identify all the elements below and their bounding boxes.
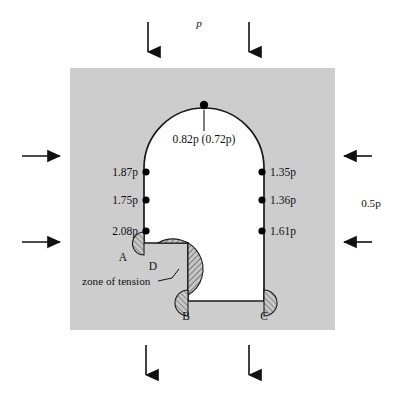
left-marker-1 — [142, 168, 149, 175]
right-stress-label-2: 1.36p — [270, 194, 296, 207]
right-stress-label-1: 1.35p — [270, 166, 296, 179]
right-marker-2 — [258, 196, 265, 203]
left-stress-label-1: 1.87p — [112, 166, 138, 179]
apex-marker — [200, 101, 208, 109]
left-stress-label-3: 2.08p — [112, 225, 138, 238]
left-marker-3 — [142, 227, 149, 234]
right-marker-3 — [258, 227, 265, 234]
corner-label-d: D — [149, 260, 157, 272]
corner-label-b: B — [182, 310, 190, 322]
stress-concentration-figure: 0.82p (0.72p) 1.87p 1.75p 2.08p 1.35p 1.… — [0, 0, 394, 398]
apex-stress-label: 0.82p (0.72p) — [173, 133, 236, 146]
horizontal-load-label: 0.5p — [361, 197, 381, 209]
right-marker-1 — [258, 168, 265, 175]
vertical-load-label: p — [195, 17, 202, 29]
right-stress-label-3: 1.61p — [270, 225, 296, 238]
left-stress-label-2: 1.75p — [112, 194, 138, 207]
corner-label-c: C — [260, 310, 268, 322]
left-marker-2 — [142, 196, 149, 203]
zone-of-tension-label: zone of tension — [82, 275, 151, 287]
corner-label-a: A — [119, 251, 128, 263]
